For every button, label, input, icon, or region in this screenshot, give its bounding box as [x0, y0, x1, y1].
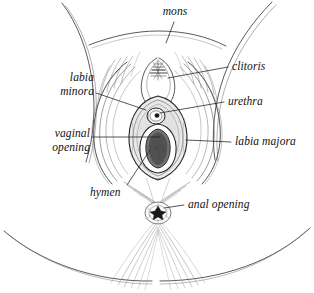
label-labia-minora-line1: labia: [20, 70, 94, 84]
label-vaginal-opening: vaginal opening: [12, 126, 90, 154]
label-mons: mons: [140, 4, 210, 18]
label-hymen: hymen: [90, 185, 121, 199]
label-labia-minora: labia minora: [20, 70, 94, 98]
label-labia-minora-line2: minora: [20, 84, 94, 98]
label-labia-majora: labia majora: [235, 134, 296, 148]
anal-opening-shape: [145, 202, 171, 224]
label-vaginal-opening-line1: vaginal: [12, 126, 90, 140]
urethra-shape: [147, 108, 165, 124]
label-clitoris: clitoris: [232, 59, 265, 73]
label-urethra: urethra: [228, 94, 263, 108]
label-vaginal-opening-line2: opening: [12, 140, 90, 154]
anatomy-figure: mons clitoris urethra labia majora labia…: [0, 0, 314, 293]
label-anal-opening: anal opening: [188, 197, 250, 211]
